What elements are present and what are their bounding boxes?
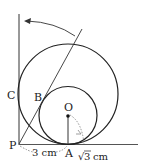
- label-c: C: [7, 89, 15, 102]
- arrowhead-icon: [24, 18, 31, 24]
- label-pa-length: 3 cm: [32, 147, 57, 158]
- sqrt-value: 3: [84, 151, 90, 162]
- label-b: B: [34, 91, 42, 104]
- center-o: [66, 114, 70, 118]
- label-a: A: [64, 147, 74, 160]
- dotted-arc: [70, 115, 84, 144]
- geometry-diagram: O C B P A 3 cm √ 3 cm: [0, 0, 142, 166]
- dotted-arrow-icon: [76, 130, 81, 134]
- label-p: P: [9, 139, 17, 152]
- rotation-arrow: [27, 21, 75, 36]
- arc-unit: cm: [93, 151, 109, 162]
- label-o: O: [64, 101, 73, 114]
